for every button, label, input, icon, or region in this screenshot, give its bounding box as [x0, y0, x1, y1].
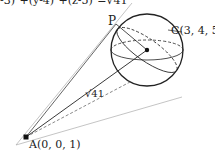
header-equation-fragment: -3)²+(y-4)²+(z-5)²=√41 [0, 0, 128, 7]
tangent-circle-front [111, 29, 176, 79]
label-C: C(3, 4, 5) [171, 24, 215, 37]
label-P: P [108, 14, 116, 28]
point-C [145, 48, 149, 52]
segment-A-lower [26, 82, 130, 137]
point-A [24, 135, 29, 140]
label-A: A(0, 0, 1) [28, 138, 81, 151]
segment-PC [116, 24, 147, 50]
sphere-tangent-diagram: -3)²+(y-4)²+(z-5)²=√41 P C(3, 4, 5) A(0,… [0, 0, 215, 152]
label-sqrt41: √41 [85, 88, 104, 99]
